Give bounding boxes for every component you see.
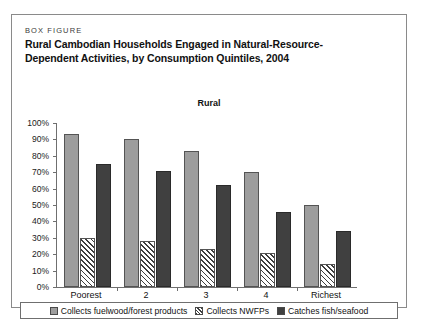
figure-title-line-1: Rural Cambodian Households Engaged in Na… bbox=[25, 38, 385, 52]
y-axis-tick bbox=[53, 189, 57, 190]
bar-group bbox=[297, 123, 357, 287]
bar[interactable] bbox=[124, 139, 139, 287]
bar[interactable] bbox=[336, 231, 351, 287]
figure-box: BOX FIGURE Rural Cambodian Households En… bbox=[11, 14, 407, 308]
legend-item[interactable]: Collects fuelwood/forest products bbox=[50, 306, 188, 316]
y-axis-tick bbox=[53, 287, 57, 288]
bar[interactable] bbox=[304, 205, 319, 287]
y-axis-tick bbox=[53, 123, 57, 124]
chart-axes bbox=[56, 123, 357, 288]
y-axis-tick-label: 50% bbox=[15, 200, 49, 210]
bar-groups bbox=[57, 123, 357, 287]
bar-group bbox=[177, 123, 237, 287]
y-axis-tick-label: 60% bbox=[15, 184, 49, 194]
bar-group bbox=[57, 123, 117, 287]
legend-item-label: Collects NWFPs bbox=[206, 306, 269, 316]
y-axis-tick-labels: 100%90%80%70%60%50%40%30%20%10%0% bbox=[15, 115, 49, 279]
bar-group bbox=[237, 123, 297, 287]
y-axis-tick bbox=[53, 139, 57, 140]
bar[interactable] bbox=[320, 264, 335, 287]
bar[interactable] bbox=[64, 134, 79, 287]
bar[interactable] bbox=[260, 253, 275, 287]
y-axis-tick bbox=[53, 205, 57, 206]
solid-dark-swatch bbox=[277, 307, 285, 315]
legend-item-label: Collects fuelwood/forest products bbox=[61, 306, 188, 316]
bar[interactable] bbox=[156, 171, 171, 287]
bar[interactable] bbox=[200, 249, 215, 287]
figure-title-line-2: Dependent Activities, by Consumption Qui… bbox=[25, 52, 385, 66]
x-axis-tick-label: Poorest bbox=[56, 290, 116, 300]
y-axis-tick bbox=[53, 172, 57, 173]
legend-item[interactable]: Collects NWFPs bbox=[195, 306, 269, 316]
bar[interactable] bbox=[184, 151, 199, 287]
bar[interactable] bbox=[276, 212, 291, 287]
figure-header: BOX FIGURE Rural Cambodian Households En… bbox=[25, 26, 385, 65]
solid-gray-swatch bbox=[50, 307, 58, 315]
y-axis-tick-label: 10% bbox=[15, 266, 49, 276]
y-axis-tick bbox=[53, 221, 57, 222]
legend-item[interactable]: Catches fish/seafood bbox=[277, 306, 368, 316]
bar[interactable] bbox=[96, 164, 111, 287]
x-axis-tick-label: 2 bbox=[116, 290, 176, 300]
legend-item-label: Catches fish/seafood bbox=[288, 306, 368, 316]
y-axis-tick bbox=[53, 254, 57, 255]
bar-group bbox=[117, 123, 177, 287]
chart-title: Rural bbox=[12, 98, 406, 108]
y-axis-tick bbox=[53, 238, 57, 239]
y-axis-tick-label: 30% bbox=[15, 233, 49, 243]
figure-kicker: BOX FIGURE bbox=[25, 26, 385, 35]
x-axis-tick-labels: Poorest234Richest bbox=[56, 290, 356, 300]
y-axis-tick bbox=[53, 156, 57, 157]
y-axis-tick-label: 0% bbox=[15, 282, 49, 292]
y-axis-tick-label: 100% bbox=[15, 118, 49, 128]
bar[interactable] bbox=[80, 238, 95, 287]
chart-legend: Collects fuelwood/forest productsCollect… bbox=[20, 302, 398, 319]
x-axis-tick-label: 3 bbox=[176, 290, 236, 300]
bar[interactable] bbox=[216, 185, 231, 287]
x-axis-tick-label: Richest bbox=[296, 290, 356, 300]
figure-title: Rural Cambodian Households Engaged in Na… bbox=[25, 38, 385, 65]
y-axis-tick-label: 90% bbox=[15, 134, 49, 144]
chart-plot-area: 100%90%80%70%60%50%40%30%20%10%0% Poores… bbox=[12, 115, 406, 307]
y-axis-tick-label: 70% bbox=[15, 167, 49, 177]
bar[interactable] bbox=[244, 172, 259, 287]
y-axis-tick bbox=[53, 271, 57, 272]
y-axis-tick-label: 40% bbox=[15, 216, 49, 226]
y-axis-tick-label: 80% bbox=[15, 151, 49, 161]
bar[interactable] bbox=[140, 241, 155, 287]
y-axis-tick-label: 20% bbox=[15, 249, 49, 259]
hatched-swatch bbox=[195, 307, 203, 315]
x-axis-tick-label: 4 bbox=[236, 290, 296, 300]
